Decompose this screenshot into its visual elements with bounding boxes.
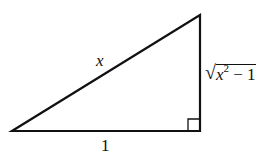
radical-sign: √ [205, 62, 216, 82]
diagram-canvas: x 1 √ x 2 − 1 [0, 0, 276, 156]
radicand-rest: − 1 [229, 66, 256, 83]
radicand: x 2 − 1 [216, 64, 256, 83]
radicand-exponent: 2 [224, 63, 230, 74]
hypotenuse-label: x [96, 52, 104, 69]
vertical-side-label: √ x 2 − 1 [205, 62, 256, 83]
radicand-variable: x [216, 66, 224, 83]
base-label: 1 [101, 137, 110, 154]
triangle-shape [12, 15, 200, 131]
right-angle-marker [188, 119, 200, 131]
